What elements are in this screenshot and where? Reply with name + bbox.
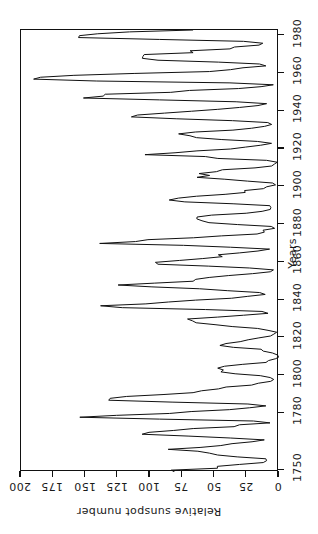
- series-line-relative-sunspot-number: [34, 30, 279, 472]
- time-axis-tick-label: 1800: [291, 353, 304, 393]
- time-axis-tick: [278, 223, 284, 224]
- time-axis-tick-label: 1840: [291, 278, 304, 318]
- time-axis-tick: [278, 469, 284, 470]
- sunspot-line-plot: [21, 30, 279, 472]
- value-axis-tick: [277, 471, 278, 477]
- plot-frame: [20, 29, 278, 471]
- time-axis-tick-label: 1900: [291, 164, 304, 204]
- time-axis-tick-label: 1940: [291, 89, 304, 129]
- value-axis-tick: [84, 471, 85, 477]
- time-axis-tick: [278, 299, 284, 300]
- time-axis-tick: [278, 336, 284, 337]
- value-axis-title: Relative sunspot number: [49, 505, 249, 518]
- time-axis-tick-label: 1960: [291, 51, 304, 91]
- time-axis-tick-label: 1920: [291, 127, 304, 167]
- time-axis-tick-label: 1980: [291, 13, 304, 53]
- time-axis-tick: [278, 185, 284, 186]
- time-axis-tick: [278, 110, 284, 111]
- time-axis-tick: [278, 412, 284, 413]
- value-axis-tick: [116, 471, 117, 477]
- time-axis-tick-label: 1780: [291, 391, 304, 431]
- sunspot-figure: 2001751501251007550250 17501780180018201…: [0, 0, 318, 534]
- time-axis-tick: [278, 34, 284, 35]
- value-axis-tick: [148, 471, 149, 477]
- time-axis-tick: [278, 261, 284, 262]
- value-axis-tick: [245, 471, 246, 477]
- value-axis-tick: [213, 471, 214, 477]
- value-axis-tick: [19, 471, 20, 477]
- time-axis-tick-label: 1750: [291, 448, 304, 488]
- time-axis-tick-label: 1820: [291, 315, 304, 355]
- time-axis-title: Years: [286, 224, 299, 284]
- time-axis-tick: [278, 374, 284, 375]
- value-axis-tick: [181, 471, 182, 477]
- time-axis-tick: [278, 147, 284, 148]
- time-axis-tick: [278, 72, 284, 73]
- value-axis-tick: [52, 471, 53, 477]
